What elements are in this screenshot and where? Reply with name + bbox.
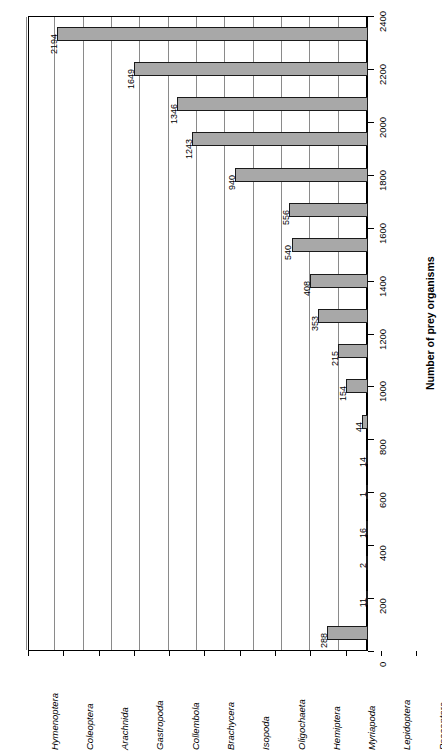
bar — [134, 62, 368, 76]
bar-row: 1649 — [28, 62, 368, 76]
bar — [292, 238, 369, 252]
bar-row: 154 — [28, 379, 368, 393]
value-axis-title: Number of prey organisms — [424, 256, 436, 390]
bar-row: 288 — [28, 626, 368, 640]
bar-row: 215 — [28, 344, 368, 358]
bar-value-label: 16 — [358, 528, 367, 538]
value-tick-label: 1600 — [378, 223, 388, 244]
bar — [235, 168, 368, 182]
bar — [327, 626, 368, 640]
bar-value-label: 556 — [282, 210, 291, 225]
value-tick-label: 0 — [378, 662, 388, 667]
bar-row: 540 — [28, 238, 368, 252]
bar — [338, 344, 368, 358]
bar-row: 2 — [28, 556, 368, 570]
value-tick-label: 400 — [378, 545, 388, 561]
bar — [192, 132, 368, 146]
gridline — [26, 17, 27, 650]
bar-row: 14 — [28, 450, 368, 464]
bar-value-label: 11 — [359, 598, 368, 607]
category-label: Psocoptera — [438, 702, 442, 750]
bar-row: 1243 — [28, 132, 368, 146]
bars-layer: 2194164913461243940556540408353215154441… — [28, 16, 368, 651]
bar-row: 16 — [28, 521, 368, 535]
bar-chart: 2194164913461243940556540408353215154441… — [0, 0, 442, 755]
bar-value-label: 14 — [359, 457, 368, 467]
value-tick-label: 600 — [378, 492, 388, 508]
value-tick-label: 1400 — [378, 275, 388, 296]
bar-value-label: 540 — [284, 245, 293, 260]
bar-row: 556 — [28, 203, 368, 217]
bar-row: 940 — [28, 168, 368, 182]
bar-row: 353 — [28, 309, 368, 323]
bar-value-label: 1649 — [127, 69, 136, 89]
bar-value-label: 408 — [303, 281, 312, 296]
bar-row: 11 — [28, 591, 368, 605]
value-tick-label: 800 — [378, 439, 388, 455]
bar-row: 408 — [28, 274, 368, 288]
bar-value-label: 44 — [354, 422, 363, 432]
category-label: Collembola — [191, 702, 201, 750]
bar-value-label: 288 — [320, 633, 329, 648]
bar — [177, 97, 368, 111]
bar-value-label: 353 — [311, 316, 320, 331]
bar — [318, 309, 368, 323]
bar-value-label: 940 — [227, 175, 236, 190]
bar-row: 44 — [28, 415, 368, 429]
value-axis-labels: 0200400600800100012001400160018002000220… — [370, 0, 410, 755]
bar-value-label: 2 — [359, 563, 368, 568]
value-tick-label: 1200 — [378, 328, 388, 349]
value-tick-label: 1000 — [378, 381, 388, 402]
bar-value-label: 1 — [359, 492, 368, 497]
category-label: Arachnida — [120, 707, 130, 750]
value-tick-label: 2400 — [378, 11, 388, 32]
category-label: Oligochaeta — [297, 699, 307, 750]
category-label: Coleoptera — [85, 704, 95, 750]
category-label: Isopoda — [261, 716, 271, 750]
bar — [310, 274, 368, 288]
value-tick-label: 2000 — [378, 117, 388, 138]
bar-value-label: 215 — [330, 351, 339, 366]
bar-row: 1346 — [28, 97, 368, 111]
value-tick-label: 2200 — [378, 64, 388, 85]
bar — [57, 27, 368, 41]
category-label: Hemiptera — [332, 706, 342, 750]
bar-row: 1 — [28, 485, 368, 499]
value-tick-label: 200 — [378, 598, 388, 614]
category-label: Brachycera — [226, 702, 236, 750]
bar-value-label: 1243 — [184, 139, 193, 159]
category-label: Gastropoda — [155, 700, 165, 750]
bar-value-label: 154 — [339, 386, 348, 401]
bar-value-label: 1346 — [170, 104, 179, 124]
bar — [289, 203, 368, 217]
bar-value-label: 2194 — [50, 34, 59, 54]
bar — [346, 379, 368, 393]
value-tick-label: 1800 — [378, 170, 388, 191]
bar-row: 2194 — [28, 27, 368, 41]
category-label: Hymenoptera — [50, 693, 60, 750]
